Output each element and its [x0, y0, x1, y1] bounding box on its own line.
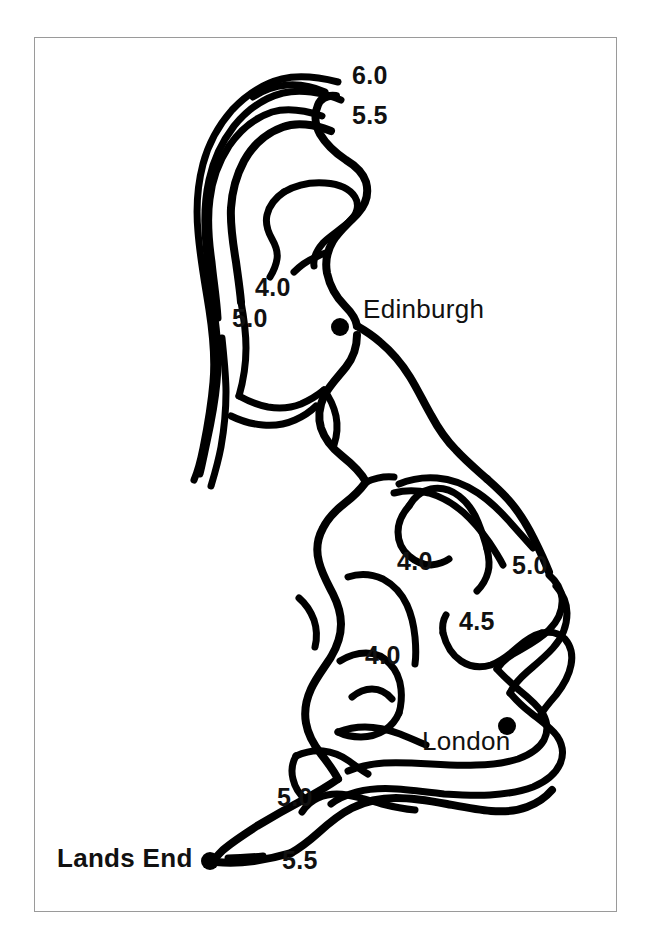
- contour-label-5-0-southwest: 5.0: [277, 785, 313, 810]
- contour-label-4-0-south: 4.0: [365, 643, 401, 668]
- contour-line-4-0-midlands-east-tail: [477, 549, 489, 591]
- coastline-cornwall: [214, 779, 338, 860]
- contour-label-5-5-north: 5.5: [352, 103, 388, 128]
- contour-line-5-5-sw: [228, 856, 263, 858]
- contour-label-4-0-midlands: 4.0: [397, 549, 433, 574]
- figure-root: 6.0 5.5 4.0 5.0 4.0 5.0 4.5 4.0 5.0 5.5 …: [0, 0, 648, 938]
- contour-label-4-0-scotland: 4.0: [255, 275, 291, 300]
- contour-label-5-5-southwest: 5.5: [282, 848, 318, 873]
- contour-group-southwest: [228, 751, 415, 858]
- city-label-lands-end: Lands End: [57, 845, 193, 871]
- contour-line-4-0-scotland-loop-west: [266, 192, 284, 277]
- contour-detail-group: [231, 85, 394, 647]
- contour-map-canvas: [0, 0, 648, 938]
- contour-label-4-5-east: 4.5: [459, 609, 495, 634]
- contour-label-6-0-north: 6.0: [352, 63, 388, 88]
- coastline-east-edinburgh: [357, 326, 487, 479]
- coastline-scotland-east-lower: [319, 335, 366, 482]
- contour-label-5-0-east: 5.0: [512, 553, 548, 578]
- contour-detail-wales-coast: [299, 598, 316, 647]
- city-dot-edinburgh[interactable]: [331, 318, 349, 336]
- contour-detail-solway: [239, 390, 324, 408]
- coastline-south-england: [291, 790, 552, 853]
- city-label-edinburgh: Edinburgh: [363, 296, 484, 322]
- city-label-london: London: [422, 728, 511, 754]
- contour-group-4-0-scotland: [266, 183, 357, 277]
- contour-line-4-5-tail: [443, 615, 446, 633]
- contour-label-5-0-west-coast: 5.0: [232, 306, 268, 331]
- contour-line-4-0-south-inner-tail: [352, 689, 392, 699]
- city-dot-lands-end[interactable]: [201, 852, 219, 870]
- contour-detail-pennine: [366, 477, 394, 482]
